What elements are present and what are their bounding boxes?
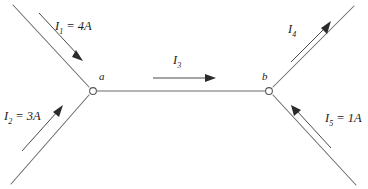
label-i4-subscript: 4 — [292, 30, 296, 39]
arrow-i3 — [153, 74, 216, 82]
label-i3-subscript: 3 — [177, 61, 181, 70]
arrow-i4-head — [321, 21, 331, 34]
wire-upper-left — [13, 5, 89, 87]
arrow-i3-head — [205, 74, 216, 82]
label-current-i5: I5 = 1A — [325, 112, 362, 128]
label-current-i3: I3 — [173, 54, 181, 70]
label-current-i4: I4 — [288, 23, 296, 39]
arrow-i1-head — [72, 50, 83, 61]
label-i5-value: = 1A — [333, 111, 362, 125]
circuit-diagram-canvas: I1 = 4A I2 = 3A I3 I4 I5 = 1A a b — [0, 0, 368, 189]
node-a-dot — [90, 88, 97, 95]
wire-upper-right — [273, 6, 354, 87]
label-node-b: b — [262, 71, 268, 82]
label-node-a: a — [99, 71, 105, 82]
label-i2-value: = 3A — [12, 109, 41, 123]
label-current-i1: I1 = 4A — [55, 20, 92, 36]
label-i1-value: = 4A — [63, 19, 92, 33]
label-current-i2: I2 = 3A — [4, 110, 41, 126]
wire-lower-right — [273, 95, 356, 185]
arrow-i4 — [291, 21, 331, 62]
node-b-dot — [266, 88, 273, 95]
